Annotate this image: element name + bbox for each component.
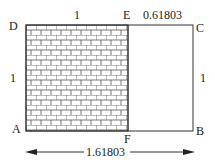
point-label-d: D	[9, 19, 18, 33]
dimension-total-width: 1.61803	[86, 145, 125, 159]
arrowhead-right-icon	[183, 149, 195, 155]
point-label-f: F	[124, 132, 131, 146]
square-region-brick	[26, 25, 128, 131]
dimension-top-right: 0.61803	[143, 8, 182, 22]
dimension-right: 1	[200, 71, 206, 85]
point-label-e: E	[123, 8, 130, 22]
golden-rectangle-diagram: D E C A F B 1 0.61803 1 1 1.61803	[0, 0, 215, 168]
point-label-a: A	[12, 122, 21, 136]
point-label-c: C	[196, 21, 204, 35]
arrowhead-left-icon	[25, 149, 37, 155]
point-label-b: B	[196, 124, 204, 138]
dimension-top-left: 1	[74, 8, 80, 22]
dimension-left: 1	[10, 71, 16, 85]
